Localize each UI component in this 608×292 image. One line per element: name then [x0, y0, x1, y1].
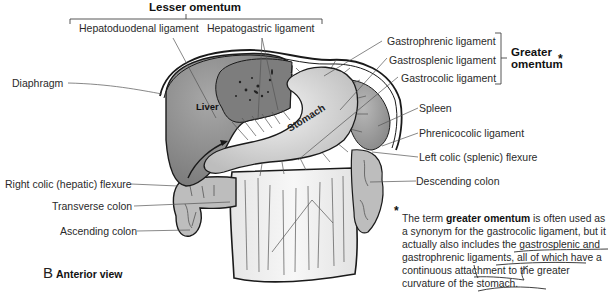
footnote-text-after: is often used as a synonym for the gastr… — [402, 213, 606, 289]
label-right-colic-flexure: Right colic (hepatic) flexure — [5, 178, 132, 190]
label-hepatogastric-ligament: Hepatogastric ligament — [207, 22, 314, 34]
label-hepatoduodenal-ligament: Hepatoduodenal ligament — [79, 22, 199, 34]
greater-omentum-apron — [230, 168, 357, 282]
panel-title: Anterior view — [56, 268, 123, 280]
lesser-omentum-title: Lesser omentum — [149, 1, 241, 13]
footnote-asterisk: * — [394, 204, 399, 218]
greater-omentum-bracket — [495, 33, 507, 84]
label-spleen: Spleen — [419, 102, 452, 114]
panel-letter: B — [43, 264, 53, 281]
greater-omentum-title-line2: omentum — [511, 58, 563, 70]
label-diaphragm: Diaphragm — [12, 77, 63, 89]
footnote-bold-term: greater omentum — [446, 213, 530, 224]
footnote-text: The term greater omentum is often used a… — [402, 212, 608, 290]
label-gastrophrenic-ligament: Gastrophrenic ligament — [387, 35, 496, 47]
label-descending-colon: Descending colon — [416, 175, 499, 187]
greater-omentum-title-line1: Greater — [511, 46, 552, 58]
label-left-colic-flexure: Left colic (splenic) flexure — [419, 151, 537, 163]
greater-omentum-asterisk: * — [558, 52, 563, 66]
descending-colon-shape — [351, 150, 383, 233]
label-phrenicocolic-ligament: Phrenicocolic ligament — [419, 127, 524, 139]
label-ascending-colon: Ascending colon — [60, 225, 137, 237]
panel-caption: BAnterior view — [43, 264, 123, 282]
label-gastrosplenic-ligament: Gastrosplenic ligament — [389, 54, 496, 66]
label-gastrocolic-ligament: Gastrocolic ligament — [401, 72, 496, 84]
footnote-text-before: The term — [402, 213, 446, 224]
label-transverse-colon: Transverse colon — [52, 200, 132, 212]
